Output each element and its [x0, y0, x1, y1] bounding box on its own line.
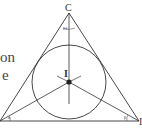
bisector-a [0, 82, 69, 121]
angle-mark-right: β [124, 115, 126, 120]
label-vertex-c: C [65, 2, 72, 13]
bisector-b [69, 82, 139, 121]
angle-mark-left: α [8, 115, 10, 120]
label-incenter: I [64, 68, 68, 79]
incenter-point [66, 79, 71, 84]
incircle-diagram: C I I θ θ α β [0, 0, 142, 129]
angle-mark-top: θ θ [63, 27, 68, 31]
angle-arc-right [127, 115, 128, 121]
label-vertex-right: I [139, 116, 142, 127]
